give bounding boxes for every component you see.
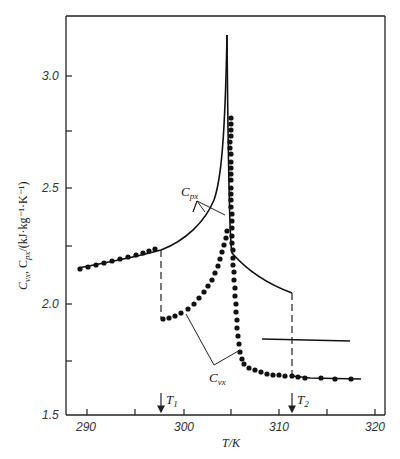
y-tick-label: 1.5 — [42, 408, 59, 422]
cpx-leader-lines — [193, 201, 225, 215]
y-tick-label: 2.0 — [41, 297, 59, 311]
cvx-right-line — [262, 339, 350, 341]
t1-label: T1 — [166, 392, 178, 409]
t2-label: T2 — [297, 392, 309, 409]
y-axis-title: Cvx, Cpx/(kJ·kg⁻¹·K⁻¹) — [16, 182, 32, 290]
x-tick-label: 310 — [269, 420, 289, 434]
t2-arrow-icon — [289, 393, 295, 412]
x-axis-ticks — [87, 409, 375, 415]
x-tick-label: 320 — [365, 420, 385, 434]
x-tick-label: 290 — [75, 420, 96, 434]
t1-arrow-icon — [158, 393, 164, 412]
cpx-curve — [78, 35, 227, 268]
cvx-leader-lines — [186, 314, 240, 365]
x-tick-label: 300 — [174, 420, 194, 434]
cvx-label: Cvx — [209, 370, 226, 387]
y-tick-label: 2.5 — [41, 181, 59, 195]
y-tick-label: 3.0 — [42, 69, 59, 83]
cpx-right-curve — [227, 35, 292, 293]
cpx-label: Cpx — [181, 184, 198, 201]
y-axis-ticks — [66, 76, 72, 361]
cvx-data-points — [77, 115, 353, 381]
x-axis-title: T/K — [222, 436, 241, 450]
heat-capacity-chart: 3.0 2.5 2.0 1.5 290 300 310 320 T/K Cvx,… — [0, 0, 400, 459]
